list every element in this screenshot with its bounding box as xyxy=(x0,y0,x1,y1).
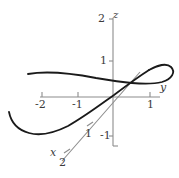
x-tick-label-1: 1 xyxy=(85,128,92,139)
y-tick-label-1: 1 xyxy=(147,99,154,110)
z-tick-label-1: 1 xyxy=(100,55,107,66)
x-tick-1 xyxy=(87,122,93,126)
z-axis-label: z xyxy=(113,10,118,20)
y-tick-label-minus-1: -1 xyxy=(72,99,83,110)
x-tick-label-2: 2 xyxy=(59,157,66,168)
curve-upper-branch xyxy=(28,65,173,84)
plot-canvas xyxy=(0,0,179,178)
z-tick-label-2: 2 xyxy=(98,13,105,24)
y-tick-label-minus-2: -2 xyxy=(35,99,46,110)
z-tick-label-minus-1: -1 xyxy=(100,130,111,141)
space-curve-figure: 2 1 -1 -2 -1 1 1 2 z y x xyxy=(0,0,179,178)
x-axis-label: x xyxy=(50,147,56,158)
y-axis-label: y xyxy=(160,82,166,93)
